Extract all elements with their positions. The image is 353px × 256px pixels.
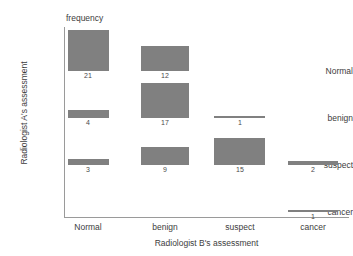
mosaic-chart: frequency Radiologist A's assessment Rad… — [0, 0, 353, 256]
bar-suspect-normal — [68, 159, 109, 165]
y-tick-label-normal: Normal — [295, 66, 353, 76]
bar-cancer-cancer — [288, 210, 338, 212]
x-tick-label-suspect: suspect — [225, 222, 254, 232]
bar-suspect-cancer — [288, 161, 338, 165]
bar-normal-benign — [141, 46, 189, 71]
y-axis-line — [64, 27, 65, 217]
bar-value-suspect-cancer: 2 — [311, 166, 315, 173]
y-tick-label-cancer: cancer — [295, 207, 353, 217]
bar-benign-benign — [141, 83, 189, 118]
bar-value-suspect-suspect: 15 — [236, 166, 244, 173]
frequency-caption: frequency — [66, 13, 103, 23]
y-tick-label-benign: benign — [295, 113, 353, 123]
bar-benign-normal — [68, 110, 109, 118]
bar-value-benign-suspect: 1 — [238, 119, 242, 126]
bar-suspect-benign — [141, 147, 189, 165]
x-axis-line — [64, 217, 349, 218]
bar-benign-suspect — [214, 116, 265, 118]
bar-value-suspect-benign: 9 — [163, 166, 167, 173]
y-axis-title: Radiologist A's assessment — [19, 23, 29, 203]
bar-value-cancer-cancer: 1 — [311, 213, 315, 220]
x-tick-label-normal: Normal — [74, 222, 101, 232]
x-tick-label-benign: benign — [152, 222, 178, 232]
bar-value-normal-benign: 12 — [161, 72, 169, 79]
bar-value-normal-normal: 21 — [84, 72, 92, 79]
bar-value-benign-benign: 17 — [161, 119, 169, 126]
x-tick-label-cancer: cancer — [300, 222, 326, 232]
bar-normal-normal — [68, 30, 109, 71]
bar-value-suspect-normal: 3 — [86, 166, 90, 173]
bar-value-benign-normal: 4 — [86, 119, 90, 126]
x-axis-title: Radiologist B's assessment — [64, 238, 349, 248]
bar-suspect-suspect — [214, 138, 265, 165]
